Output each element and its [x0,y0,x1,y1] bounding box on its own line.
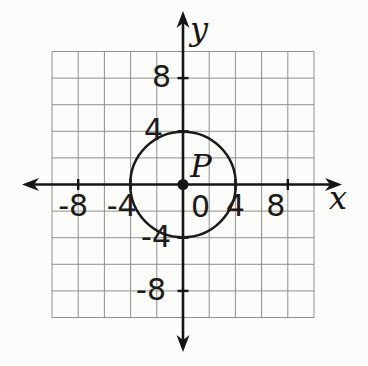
y-tick-label: -4 [141,219,171,254]
point-p-dot [178,179,189,190]
y-tick-label: -8 [136,272,166,307]
x-tick-label: 4 [226,188,245,223]
x-axis-label: x [329,179,347,217]
y-axis-label: y [188,10,209,48]
y-tick-label: 8 [152,59,171,94]
point-p-label: P [189,147,212,185]
origin-label: 0 [191,189,210,224]
x-tick-label: 8 [266,188,285,223]
coordinate-plane-figure: yxP0-8-44884-4-8 [0,0,368,366]
x-tick-label: -8 [58,188,88,223]
y-tick-label: 4 [144,112,163,147]
x-tick-label: -4 [107,188,137,223]
textbook-figure-page: yxP0-8-44884-4-8 [0,0,368,366]
